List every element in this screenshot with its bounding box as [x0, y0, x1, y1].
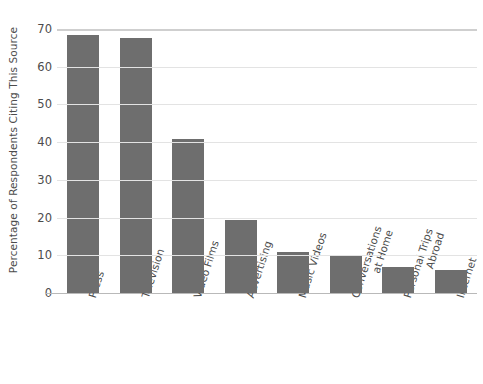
- bar: [330, 255, 362, 293]
- gridline: [57, 180, 477, 181]
- y-tick-label: 70: [22, 22, 52, 36]
- bar: [382, 267, 414, 293]
- bar: [67, 35, 99, 293]
- y-tick-label: 10: [22, 248, 52, 262]
- bar: [277, 252, 309, 293]
- y-axis-tick-labels: 010203040506070: [18, 29, 52, 293]
- bar-chart: Percentage of Respondents Citing This So…: [0, 0, 483, 384]
- y-tick-label: 20: [22, 211, 52, 225]
- bar: [172, 139, 204, 293]
- y-tick-label: 50: [22, 97, 52, 111]
- y-tick-label: 40: [22, 135, 52, 149]
- gridline: [57, 29, 477, 31]
- gridline: [57, 67, 477, 68]
- y-tick-label: 60: [22, 60, 52, 74]
- bar: [435, 270, 467, 293]
- gridline: [57, 142, 477, 143]
- y-tick-label: 30: [22, 173, 52, 187]
- gridline: [57, 218, 477, 219]
- bar: [225, 220, 257, 293]
- gridline: [57, 104, 477, 105]
- gridline: [57, 255, 477, 256]
- x-axis-tick-labels: PressTelevisionVideo FilmsAdvertisingMus…: [57, 296, 477, 384]
